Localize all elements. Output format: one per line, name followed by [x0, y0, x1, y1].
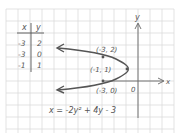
table-header-y: y [35, 23, 41, 32]
arrowheads [57, 44, 64, 93]
point-label-bottom: (-3, 0) [96, 87, 118, 95]
vertex-label: (-1, 1) [90, 66, 112, 74]
table-cell: 2 [37, 39, 42, 48]
table-cell: 0 [37, 50, 42, 59]
table-cell: -3 [18, 39, 26, 48]
table-cell: -1 [18, 61, 25, 70]
table-header-x: x [21, 23, 27, 32]
point-label-top: (-3, 2) [96, 46, 118, 54]
x-axis-label: x [165, 78, 171, 86]
y-axis-label: y [134, 13, 140, 22]
equation-label: x = -2y² + 4y - 3 [48, 106, 116, 115]
origin-label: 0 [131, 86, 136, 94]
graph-figure: x y -3 2 -3 0 -1 1 y x 0 (-3, 2) (-1, 1)… [0, 0, 180, 140]
table-cell: -3 [18, 50, 26, 59]
axes [104, 23, 164, 118]
table-cell: 1 [37, 61, 42, 70]
